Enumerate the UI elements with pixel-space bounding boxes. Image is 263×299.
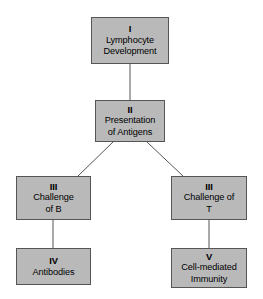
node-numeral: III	[50, 181, 58, 193]
node-numeral: V	[206, 251, 212, 263]
node-label-line: Challenge of	[184, 192, 234, 203]
node-presentation-of-antigens: II Presentation of Antigens	[95, 100, 165, 142]
node-label-line: Presentation	[105, 115, 155, 126]
node-label-line: of B	[46, 204, 62, 215]
node-numeral: III	[205, 181, 213, 193]
node-label-line: Antibodies	[33, 267, 75, 278]
node-label-line: T	[206, 204, 212, 215]
node-label-line: Lymphocyte	[106, 35, 154, 46]
node-label-line: Development	[103, 46, 156, 57]
node-numeral: IV	[49, 255, 58, 267]
node-challenge-of-t: III Challenge of T	[171, 176, 247, 220]
node-label-line: of Antigens	[108, 127, 152, 138]
node-label-line: Immunity	[191, 274, 227, 285]
node-challenge-of-b: III Challenge of B	[16, 176, 91, 220]
connector-ii-to-iii-b	[78, 142, 113, 176]
node-label-line: Cell-mediated	[181, 262, 236, 273]
flowchart-diagram: I Lymphocyte Development II Presentation…	[0, 0, 263, 299]
node-numeral: II	[127, 104, 132, 116]
connector-ii-to-iii-t	[147, 142, 183, 176]
node-cell-mediated-immunity: V Cell-mediated Immunity	[171, 248, 247, 288]
node-lymphocyte-development: I Lymphocyte Development	[91, 17, 169, 64]
node-numeral: I	[129, 23, 132, 35]
node-label-line: Challenge	[33, 192, 73, 203]
node-antibodies: IV Antibodies	[16, 248, 91, 285]
